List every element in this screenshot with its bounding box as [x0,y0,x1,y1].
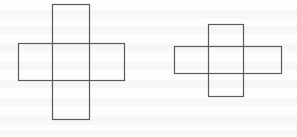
right-cross [175,25,282,97]
geometric-figure [0,0,297,137]
left-horizontal-rect [19,44,125,81]
right-horizontal-rect [175,47,282,74]
left-vertical-rect [53,5,90,120]
left-cross [19,5,125,120]
right-vertical-rect [209,25,244,97]
figure-canvas [0,0,297,137]
